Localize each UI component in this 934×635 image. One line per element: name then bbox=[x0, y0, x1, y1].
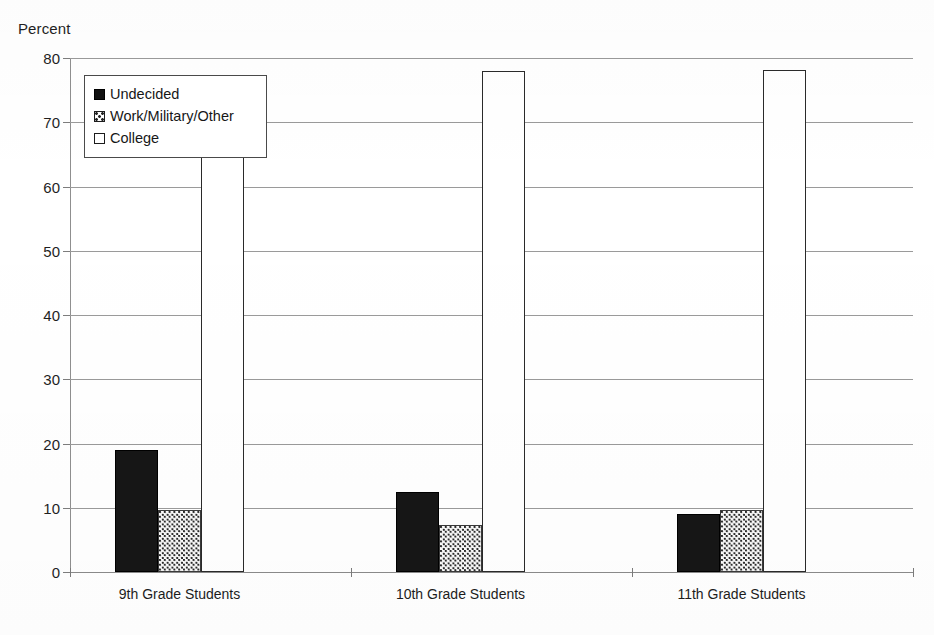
gridline bbox=[70, 58, 913, 59]
y-axis-tick bbox=[63, 379, 70, 380]
bar-college-10th bbox=[482, 71, 525, 572]
bar-undecided-9th bbox=[115, 450, 158, 572]
y-axis-tick bbox=[63, 122, 70, 123]
y-axis-tick-label: 80 bbox=[43, 50, 60, 67]
y-axis-tick-label: 70 bbox=[43, 114, 60, 131]
bar-undecided-10th bbox=[396, 492, 439, 572]
legend-swatch-white-outline-icon bbox=[94, 133, 105, 144]
x-axis-tick bbox=[632, 568, 633, 577]
legend-item-work-military-other: Work/Military/Other bbox=[94, 105, 257, 127]
bar-undecided-11th bbox=[677, 514, 720, 572]
x-axis-category-label: 11th Grade Students bbox=[677, 586, 805, 602]
x-axis-category-label: 9th Grade Students bbox=[119, 586, 240, 602]
y-axis-tick-label: 50 bbox=[43, 242, 60, 259]
legend-swatch-solid-black-icon bbox=[94, 89, 105, 100]
bar-work-military-other-11th bbox=[720, 510, 763, 572]
legend-swatch-stipple-icon bbox=[94, 111, 105, 122]
x-axis-line bbox=[70, 572, 913, 573]
y-axis-tick-label: 20 bbox=[43, 435, 60, 452]
y-axis-tick bbox=[63, 187, 70, 188]
x-axis-category-label: 10th Grade Students bbox=[396, 586, 525, 602]
y-axis-tick-label: 60 bbox=[43, 178, 60, 195]
bar-work-military-other-10th bbox=[439, 525, 482, 572]
y-axis-tick bbox=[63, 572, 70, 573]
y-axis-tick-label: 40 bbox=[43, 307, 60, 324]
legend-item-undecided: Undecided bbox=[94, 83, 257, 105]
y-axis-tick bbox=[63, 508, 70, 509]
y-axis-tick-label: 10 bbox=[43, 499, 60, 516]
legend-item-college: College bbox=[94, 127, 257, 149]
y-axis-tick-labels: 01020304050607080 bbox=[18, 58, 60, 572]
legend: Undecided Work/Military/Other College bbox=[84, 75, 267, 158]
bar-college-11th bbox=[763, 70, 806, 572]
y-axis-tick bbox=[63, 58, 70, 59]
bar-chart: Percent 01020304050607080 Undecided Work… bbox=[0, 0, 934, 635]
y-axis-tick-label: 30 bbox=[43, 371, 60, 388]
bar-college-9th bbox=[201, 116, 244, 572]
legend-label: Undecided bbox=[110, 87, 179, 102]
x-axis-tick bbox=[913, 568, 914, 577]
y-axis-title: Percent bbox=[18, 20, 70, 37]
y-axis-tick bbox=[63, 444, 70, 445]
y-axis-tick bbox=[63, 251, 70, 252]
legend-label: College bbox=[110, 131, 159, 146]
bar-work-military-other-9th bbox=[158, 510, 201, 572]
x-axis-tick bbox=[351, 568, 352, 577]
x-axis-tick bbox=[70, 568, 71, 577]
y-axis-tick-label: 0 bbox=[52, 564, 60, 581]
y-axis-tick bbox=[63, 315, 70, 316]
legend-label: Work/Military/Other bbox=[110, 109, 234, 124]
